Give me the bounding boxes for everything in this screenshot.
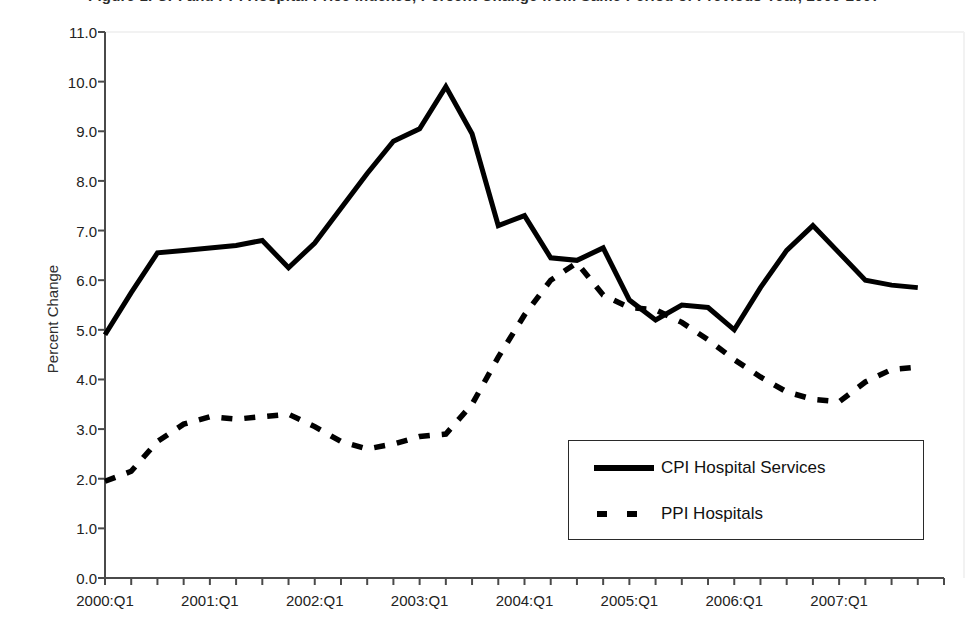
legend-swatch-dashed-icon [593, 509, 655, 519]
plot-area [0, 0, 968, 637]
plot-svg [0, 0, 968, 637]
series-line-cpi [105, 87, 918, 335]
legend-label-ppi: PPI Hospitals [661, 504, 763, 524]
chart-figure: Figure 1. CPI and PPI Hospital Price Ind… [0, 0, 968, 637]
legend-item-ppi: PPI Hospitals [569, 499, 923, 529]
legend-item-cpi: CPI Hospital Services [569, 453, 923, 483]
legend-label-cpi: CPI Hospital Services [661, 458, 825, 478]
legend-swatch-solid-icon [593, 463, 655, 473]
chart-legend: CPI Hospital Services PPI Hospitals [568, 440, 924, 540]
